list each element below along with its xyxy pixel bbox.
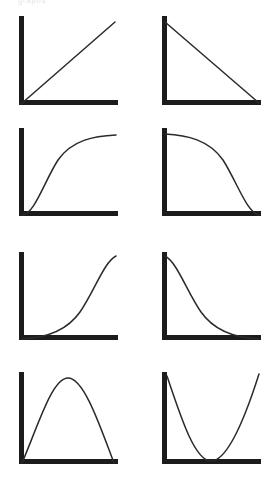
graph-panel-5 <box>0 240 138 360</box>
graph-panel-8 <box>138 360 276 482</box>
curve-concave-increasing <box>22 135 116 215</box>
curve-convex-increasing <box>22 256 116 339</box>
curve-linear-decreasing <box>165 22 259 103</box>
curve-concave-decreasing <box>165 134 259 215</box>
curve-inverted-u <box>22 378 114 463</box>
graph-panel-1 <box>0 0 138 120</box>
graph-panel-6 <box>138 240 276 360</box>
graph-panel-3 <box>0 120 138 240</box>
graph-shapes-grid: graphs <box>0 0 276 482</box>
curve-u-shape <box>167 374 259 461</box>
graph-panel-4 <box>138 120 276 240</box>
curve-convex-decreasing <box>165 256 259 339</box>
graph-panel-2 <box>138 0 276 120</box>
curve-linear-increasing <box>21 22 115 104</box>
graph-panel-7 <box>0 360 138 482</box>
